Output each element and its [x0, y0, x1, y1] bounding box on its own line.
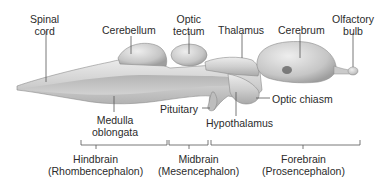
cerebellum-shape	[118, 43, 167, 66]
brain-diagram: Spinal cord Cerebellum Optic tectum Thal…	[0, 0, 387, 181]
label-cerebrum: Cerebrum	[278, 24, 325, 36]
label-optic-tectum: Optic tectum	[173, 13, 205, 37]
division-midbrain: Midbrain (Mesencephalon)	[158, 153, 239, 177]
division-hindbrain: Hindbrain (Rhombencephalon)	[48, 153, 143, 177]
label-medulla-oblongata: Medulla oblongata	[92, 114, 138, 138]
division-forebrain: Forebrain (Prosencephalon)	[262, 153, 345, 177]
olfactory-bulb-shape	[348, 67, 358, 75]
division-brackets	[81, 140, 360, 149]
label-spinal-cord: Spinal cord	[30, 13, 59, 37]
label-optic-chiasm: Optic chiasm	[272, 93, 333, 105]
label-olfactory-bulb: Olfactory bulb	[332, 13, 374, 37]
label-thalamus: Thalamus	[218, 24, 264, 36]
label-hypothalamus: Hypothalamus	[206, 117, 273, 129]
cerebrum-ventricle	[282, 66, 292, 74]
label-pituitary: Pituitary	[160, 103, 198, 115]
cerebrum-shape	[257, 42, 336, 83]
label-cerebellum: Cerebellum	[102, 24, 156, 36]
